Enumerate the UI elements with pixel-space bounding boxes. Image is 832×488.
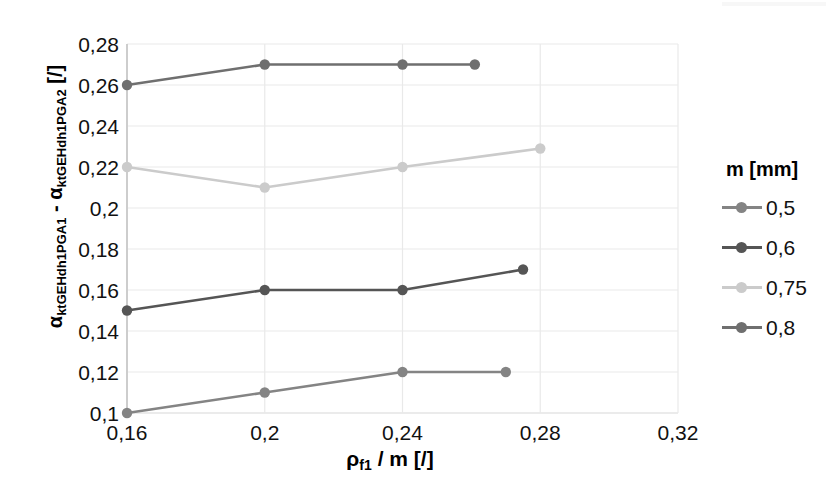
data-point: [122, 408, 132, 418]
x-tick-label: 0,28: [495, 422, 585, 443]
y-axis-title-alpha2: α: [44, 188, 66, 200]
legend-swatch: [722, 280, 762, 294]
data-point: [397, 162, 407, 172]
data-point: [122, 162, 132, 172]
plot-canvas: [127, 44, 678, 413]
legend-marker-dot: [736, 242, 747, 253]
legend-item[interactable]: 0,75: [722, 277, 832, 297]
series-line: [127, 149, 540, 188]
data-point: [397, 285, 407, 295]
legend-label: 0,5: [766, 197, 795, 218]
plot-area: [127, 44, 678, 413]
legend-label: 0,6: [766, 237, 795, 258]
data-point: [501, 367, 511, 377]
y-axis-title-sub2: ktGEHdh1PGA2: [54, 89, 69, 187]
legend-label: 0,8: [766, 317, 795, 338]
legend-item[interactable]: 0,8: [722, 317, 832, 337]
legend-marker-dot: [736, 322, 747, 333]
x-axis-title-sub: f1: [359, 457, 371, 473]
y-axis-title-sub1: ktGEHdh1PGA1: [54, 218, 69, 316]
y-axis-title-unit: [/]: [44, 65, 66, 89]
legend-marker-dot: [736, 202, 747, 213]
legend-title: m [mm]: [722, 158, 832, 181]
chart-figure: 0,10,120,140,160,180,20,220,240,260,28 0…: [0, 0, 832, 488]
data-point: [518, 264, 528, 274]
legend-marker-dot: [736, 282, 747, 293]
data-point: [470, 59, 480, 69]
series-line: [127, 65, 475, 86]
data-point: [122, 80, 132, 90]
legend-swatch: [722, 200, 762, 214]
data-point: [397, 367, 407, 377]
data-point: [397, 59, 407, 69]
series-line: [127, 372, 506, 413]
data-point: [122, 305, 132, 315]
data-point: [260, 387, 270, 397]
x-axis-title-rest: / m [/]: [372, 447, 434, 470]
y-axis-title-dash: -: [44, 200, 66, 218]
data-point: [260, 59, 270, 69]
legend-item[interactable]: 0,5: [722, 197, 832, 217]
x-tick-label: 0,16: [82, 422, 172, 443]
legend-label: 0,75: [766, 277, 807, 298]
x-tick-label: 0,2: [220, 422, 310, 443]
legend-items: 0,50,60,750,8: [722, 197, 832, 337]
legend: m [mm] 0,50,60,750,8: [722, 158, 832, 357]
scan-artifact: [722, 2, 826, 6]
series-0-5: [122, 367, 511, 418]
x-tick-label: 0,32: [633, 422, 723, 443]
data-point: [260, 285, 270, 295]
legend-swatch: [722, 240, 762, 254]
y-axis-title: αktGEHdh1PGA1 - αktGEHdh1PGA2 [/]: [44, 2, 67, 392]
series-0-75: [122, 143, 546, 192]
x-axis-title-rho: ρ: [346, 447, 359, 470]
x-tick-label: 0,24: [358, 422, 448, 443]
legend-item[interactable]: 0,6: [722, 237, 832, 257]
y-axis-title-alpha1: α: [44, 316, 66, 328]
legend-swatch: [722, 320, 762, 334]
data-point: [535, 143, 545, 153]
data-point: [260, 182, 270, 192]
x-axis-title: ρf1 / m [/]: [0, 447, 780, 471]
